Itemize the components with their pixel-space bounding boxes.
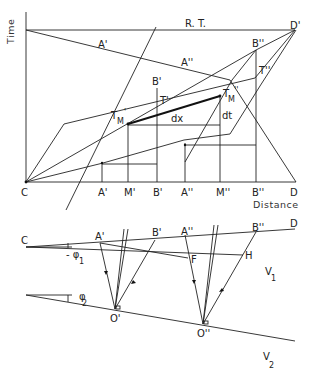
svg-text:1: 1 [271,274,276,283]
time-distance-diagram: Time Distance R. T. [5,12,300,210]
label-f: F [191,254,197,265]
label-tm2: T M '' [222,86,238,104]
label-a1-bottom: A' [98,187,108,198]
svg-text:- φ: - φ [66,249,80,260]
trajectory-b [26,30,295,182]
svg-text:'': '' [234,86,238,95]
label-dt: dt [222,110,232,121]
label-v2: V 2 [263,351,274,370]
svg-text:': ' [124,108,126,117]
label-t2: T'' [258,65,271,76]
label-a2-top: A'' [181,57,193,68]
svg-text:2: 2 [82,299,87,308]
label-v1: V 1 [265,266,276,283]
label-c: C [21,235,28,246]
label-b2-top: B'' [252,38,264,49]
label-b2: B'' [252,222,264,233]
label-b1: B' [152,227,162,238]
label-a2: A'' [181,226,193,237]
velocity-construction: C D A' B' A'' B'' F H O' O'' - φ 1 φ 2 V… [21,218,298,370]
svg-text:M: M [228,95,235,104]
label-h: H [245,250,253,261]
label-a1: A' [95,231,105,242]
ray-o2-b2 [203,232,256,324]
a2-point [184,144,186,146]
v2-line [26,295,295,341]
label-b1-bottom: B' [153,187,163,198]
label-c-top: C [21,187,28,198]
tm1-point [127,123,130,126]
label-a2-bottom: A'' [181,187,193,198]
arrow-3 [192,280,196,284]
ray-o2-1 [203,225,214,324]
label-d-prime: D' [290,20,300,31]
svg-text:1: 1 [79,257,84,266]
label-a1-top: A' [98,39,108,50]
label-b2-bottom: B'' [252,187,264,198]
svg-text:2: 2 [269,361,274,370]
ray-o2-2 [203,225,218,324]
a1-point [101,162,103,164]
label-m1-bottom: M' [124,187,135,198]
label-dx: dx [171,113,183,124]
rt-label: R. T. [185,18,206,29]
diagram-canvas: Time Distance R. T. [0,0,312,384]
ray-o1-a1 [100,243,115,309]
label-phi1: - φ 1 [66,249,84,266]
c-point [25,181,28,184]
label-t1: T' [159,95,169,106]
label-o2: O'' [197,328,210,339]
tm2-point [219,95,222,98]
label-m2-bottom: M'' [216,187,230,198]
label-o1: O' [110,313,121,324]
label-d: D [290,218,298,229]
diag-3 [232,50,256,80]
ray-o2-a2 [185,235,203,324]
label-b1-top: B' [152,76,162,87]
svg-text:M: M [117,117,124,126]
time-axis-label: Time [5,19,16,45]
distance-axis-label: Distance [253,199,299,210]
label-phi2: φ 2 [79,291,87,308]
label-d-bottom: D [290,187,298,198]
